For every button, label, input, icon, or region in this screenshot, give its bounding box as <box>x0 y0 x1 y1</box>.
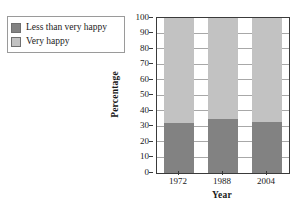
y-tick-label: 80 <box>140 43 149 54</box>
y-tick-label: 100 <box>136 12 150 23</box>
y-tick-mark <box>149 48 153 49</box>
x-axis-tick-labels: 197219882004 <box>156 175 288 189</box>
y-tick-mark <box>149 63 153 64</box>
legend-swatch-less-than-very-happy <box>11 23 21 33</box>
bar-1972 <box>164 18 194 173</box>
y-axis-title: Percentage <box>108 17 122 172</box>
legend-item-less-than-very-happy: Less than very happy <box>11 21 120 34</box>
y-tick-mark <box>149 94 153 95</box>
y-tick-label: 0 <box>145 167 150 178</box>
x-tick-label: 1972 <box>158 175 198 187</box>
legend-label-very-happy: Very happy <box>26 36 70 47</box>
legend-swatch-very-happy <box>11 37 21 47</box>
legend-item-very-happy: Very happy <box>11 35 120 48</box>
bar-segment <box>164 123 194 173</box>
bar-2004 <box>252 18 282 173</box>
y-axis-tick-labels: 0102030405060708090100 <box>124 17 152 172</box>
x-tick-mark <box>266 171 267 175</box>
plot-area <box>156 17 290 174</box>
x-axis-title: Year <box>156 190 288 200</box>
y-tick-mark <box>149 17 153 18</box>
bar-segment <box>252 122 282 173</box>
y-tick-mark <box>149 141 153 142</box>
x-tick-label: 1988 <box>202 175 242 187</box>
y-tick-label: 20 <box>140 136 149 147</box>
bar-1988 <box>208 18 238 173</box>
y-tick-label: 70 <box>140 58 149 69</box>
y-tick-label: 50 <box>140 89 149 100</box>
y-tick-label: 10 <box>140 151 149 162</box>
bar-segment <box>252 18 282 122</box>
bar-segment <box>164 18 194 123</box>
legend-label-less-than-very-happy: Less than very happy <box>26 22 107 33</box>
y-tick-mark <box>149 172 153 173</box>
bar-segment <box>208 18 238 119</box>
y-tick-mark <box>149 110 153 111</box>
y-tick-mark <box>149 156 153 157</box>
x-tick-label: 2004 <box>246 175 286 187</box>
y-tick-mark <box>149 125 153 126</box>
x-tick-mark <box>178 171 179 175</box>
stacked-bar-chart-figure: Less than very happy Very happy Percenta… <box>0 0 301 212</box>
y-tick-label: 40 <box>140 105 149 116</box>
bar-segment <box>208 119 238 173</box>
y-tick-label: 30 <box>140 120 149 131</box>
y-tick-label: 90 <box>140 27 149 38</box>
y-tick-mark <box>149 79 153 80</box>
y-tick-mark <box>149 32 153 33</box>
y-tick-label: 60 <box>140 74 149 85</box>
x-tick-mark <box>222 171 223 175</box>
